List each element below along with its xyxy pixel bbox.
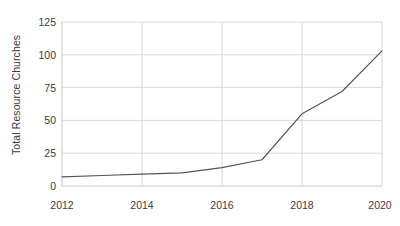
x-tick-label: 2020: [368, 199, 391, 211]
x-tick-label: 2012: [50, 199, 73, 211]
x-tick-label: 2014: [130, 199, 153, 211]
chart-screenshot: Total Resource Churches 125 100 75 50 25…: [0, 0, 400, 226]
x-tick-label: 2018: [290, 199, 313, 211]
x-tick-label: 2016: [210, 199, 233, 211]
line-chart: Total Resource Churches 125 100 75 50 25…: [0, 0, 400, 226]
x-axis-tick-labels: 2012 2014 2016 2018 2020: [0, 0, 400, 226]
